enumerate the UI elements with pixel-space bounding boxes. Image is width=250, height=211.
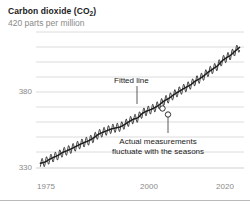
annotation-actual-measurements: Actual measurements fluctuate with the s… xyxy=(112,137,204,156)
marker-fitted-line xyxy=(160,106,165,111)
chart-figure: Carbon dioxide (CO2) 420 parts per milli… xyxy=(0,0,250,211)
annotation-actual-line2: fluctuate with the seasons xyxy=(112,147,204,157)
annotation-actual-line1: Actual measurements xyxy=(112,137,204,147)
plot-area xyxy=(0,0,250,211)
x-axis-tick-2000: 2000 xyxy=(129,182,169,191)
x-axis-tick-2020: 2020 xyxy=(205,182,245,191)
marker-actual-measurement xyxy=(165,112,170,117)
x-axis-tick-1975: 1975 xyxy=(26,182,66,191)
bottom-divider xyxy=(0,200,250,201)
annotation-markers xyxy=(160,106,171,117)
annotation-fitted-line: Fitted line xyxy=(114,76,149,86)
y-axis-tick-380: 380 xyxy=(4,87,32,96)
y-axis-tick-330: 330 xyxy=(4,163,32,172)
